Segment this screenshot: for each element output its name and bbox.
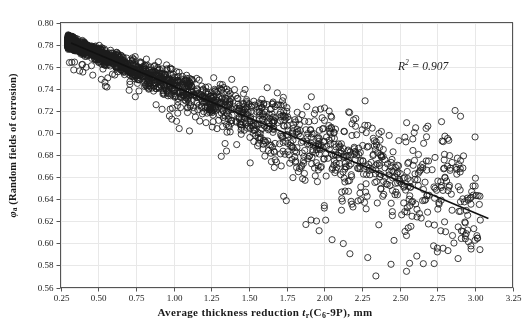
scatter-plot-canvas — [0, 0, 530, 334]
x-axis-label: Average thickness reduction tr(C6-9P), m… — [0, 306, 530, 320]
r-squared-value: = 0.907 — [409, 60, 448, 72]
r-squared-annotation: R2 = 0.907 — [398, 58, 448, 72]
r-squared-symbol: R — [398, 60, 405, 72]
x-axis-label-paren-rest: -9P), mm — [326, 306, 372, 318]
scatter-chart-figure: φa (Random fields of corrosion) Average … — [0, 0, 530, 334]
x-axis-label-paren-open: (C — [310, 306, 322, 318]
x-axis-label-main: Average thickness reduction — [158, 306, 303, 318]
